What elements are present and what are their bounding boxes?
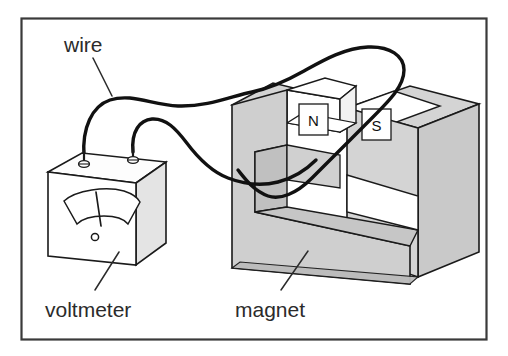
north-pole-marker: N	[299, 104, 328, 135]
voltmeter-body	[48, 146, 166, 265]
south-pole-label: S	[371, 117, 381, 134]
wire-label: wire	[63, 33, 103, 56]
magnet-right-side-face	[418, 104, 479, 277]
diagram-canvas: N S	[0, 0, 508, 356]
magnet-inner-left-wall	[255, 145, 287, 212]
figure-root: N S	[0, 0, 508, 356]
voltmeter-pivot	[91, 233, 98, 240]
voltmeter-label: voltmeter	[45, 298, 131, 321]
north-pole-label: N	[308, 112, 319, 129]
horseshoe-magnet: N S	[232, 78, 479, 284]
magnet-label: magnet	[235, 298, 305, 321]
